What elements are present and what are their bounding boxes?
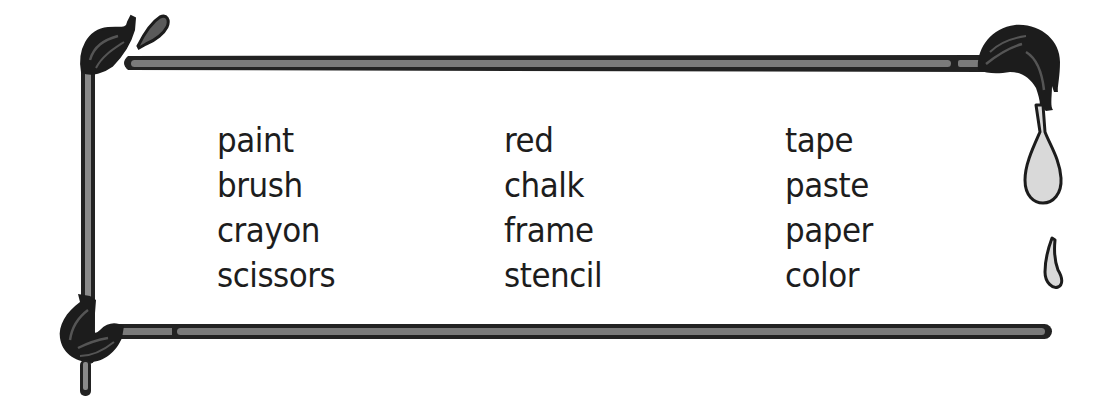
word-tape: tape (785, 124, 853, 157)
word-scissors: scissors (217, 259, 335, 292)
word-list: paint brush crayon scissors red chalk fr… (0, 0, 1118, 405)
word-paste: paste (785, 169, 869, 202)
word-red: red (504, 124, 553, 157)
word-color: color (785, 259, 859, 292)
word-chalk: chalk (504, 169, 584, 202)
word-stencil: stencil (504, 259, 602, 292)
word-paint: paint (217, 124, 294, 157)
word-frame: frame (504, 214, 594, 247)
word-crayon: crayon (217, 214, 320, 247)
word-brush: brush (217, 169, 303, 202)
word-paper: paper (785, 214, 873, 247)
